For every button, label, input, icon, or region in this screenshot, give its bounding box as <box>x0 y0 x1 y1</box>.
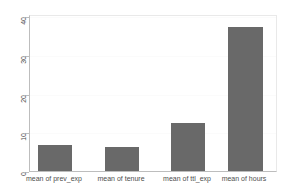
x-tick-label-tenure: mean of tenure <box>97 174 144 183</box>
gridline-40 <box>30 17 276 18</box>
bar-hours <box>228 27 263 171</box>
bar-chart: 40 30 20 10 0 mean of prev_exp mean of t… <box>0 0 290 195</box>
x-tick-label-ttl-exp: mean of ttl_exp <box>163 174 211 183</box>
x-tick-label-prev-exp: mean of prev_exp <box>26 174 82 183</box>
x-axis: mean of prev_exp mean of tenure mean of … <box>29 174 277 195</box>
y-tick-label-30: 30 <box>21 56 28 64</box>
y-tick-label-20: 20 <box>21 95 28 103</box>
plot-area <box>29 15 277 172</box>
bar-tenure <box>105 147 139 171</box>
plot-inner <box>30 16 276 171</box>
y-axis: 40 30 20 10 0 <box>0 0 29 195</box>
y-tick-label-10: 10 <box>21 133 28 141</box>
bar-ttl-exp <box>171 123 205 171</box>
x-tick-label-hours: mean of hours <box>222 174 267 183</box>
y-tick-label-40: 40 <box>21 17 28 25</box>
bar-prev-exp <box>38 145 72 171</box>
